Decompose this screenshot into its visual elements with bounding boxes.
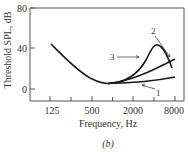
curve-3-label: 3 — [110, 52, 115, 62]
x-tick-label-2000: 2000 — [123, 105, 143, 116]
x-axis-title: Frequency, Hz — [79, 118, 138, 129]
x-tick-label-500: 500 — [85, 105, 100, 116]
threshold-chart: 80 40 0 125 500 2000 8000 Frequency, Hz … — [0, 0, 188, 152]
curve-2 — [108, 59, 175, 84]
x-tick-label-125: 125 — [45, 105, 60, 116]
curve-3 — [108, 45, 172, 84]
plot-frame — [30, 8, 184, 101]
curve-shared-segment — [51, 44, 108, 84]
y-tick-label-0: 0 — [22, 84, 27, 95]
curve-2-pointer — [155, 36, 170, 57]
x-tick-label-8000: 8000 — [164, 105, 184, 116]
curve-1-label: 1 — [156, 88, 161, 98]
curve-2-label: 2 — [151, 26, 156, 36]
curve-1-pointer — [142, 85, 155, 89]
y-axis-title: Threshold SPL, dB — [2, 11, 13, 88]
figure-caption: (b) — [102, 138, 114, 150]
y-tick-label-40: 40 — [17, 43, 27, 54]
y-tick-label-80: 80 — [17, 3, 27, 14]
